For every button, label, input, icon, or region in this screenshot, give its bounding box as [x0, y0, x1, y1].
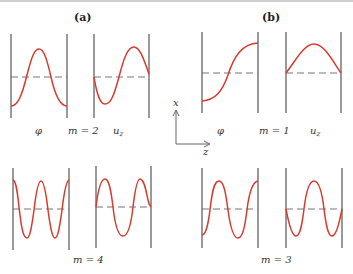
- x-axis-label: x: [173, 97, 179, 108]
- mode-label-m1: m = 1: [259, 125, 290, 136]
- mode-label-m4: m = 4: [73, 254, 104, 265]
- plot-b-m3-phi: [202, 168, 258, 248]
- phi-label-b: φ: [217, 125, 224, 136]
- mode-label-m3: m = 3: [261, 254, 292, 265]
- plot-b-m1-uz: [286, 32, 341, 113]
- uz-label-a: uz: [113, 125, 123, 138]
- plot-a-m4-phi: [13, 168, 69, 250]
- plot-a-m4-uz: [96, 166, 151, 248]
- plot-b-m3-uz: [286, 168, 342, 248]
- panel-a-label: (a): [74, 11, 92, 24]
- phi-label-a: φ: [35, 125, 42, 136]
- z-axis-label: z: [202, 146, 209, 157]
- mode-shapes-diagram: (a) (b) φ m = 2 uz φ m = 1 uz: [0, 0, 353, 274]
- panel-b-label: (b): [262, 11, 280, 24]
- coordinate-axes: x z: [173, 97, 210, 157]
- plot-a-m2-uz: [94, 34, 149, 118]
- plot-b-m1-phi: [202, 32, 258, 113]
- mode-label-m2: m = 2: [68, 125, 99, 136]
- plot-a-m2-phi: [11, 34, 67, 118]
- uz-label-b: uz: [310, 125, 320, 138]
